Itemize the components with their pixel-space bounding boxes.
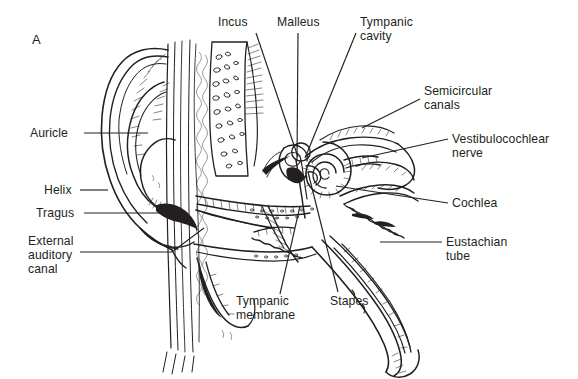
label-tympanic-membrane-line1: Tympanic [236, 294, 289, 308]
label-external-auditory-canal-line1: External [28, 234, 74, 248]
label-external-auditory-canal-line2: auditory [28, 248, 73, 262]
label-vestibulocochlear-nerve-line2: nerve [452, 146, 483, 160]
label-tympanic-cavity-line2: cavity [360, 29, 393, 43]
label-eustachian-tube-line2: tube [446, 249, 470, 263]
label-eustachian-tube-line1: Eustachian [446, 235, 507, 249]
label-tragus: Tragus [36, 206, 74, 220]
label-malleus: Malleus [277, 15, 320, 29]
ear-anatomy-illustration: A Auricle Helix Tragus External auditory… [0, 0, 578, 379]
label-tympanic-membrane-line2: membrane [236, 308, 295, 322]
panel-letter: A [32, 32, 41, 47]
label-helix: Helix [44, 183, 72, 197]
label-vestibulocochlear-nerve-line1: Vestibulocochlear [452, 132, 549, 146]
label-tympanic-membrane: Tympanic membrane [236, 294, 295, 322]
label-incus: Incus [218, 15, 248, 29]
label-tympanic-cavity-line1: Tympanic [360, 15, 413, 29]
ear-anatomy-figure: A Auricle Helix Tragus External auditory… [0, 0, 578, 379]
label-semicircular-canals-line1: Semicircular [424, 84, 492, 98]
label-cochlea: Cochlea [452, 196, 498, 210]
label-semicircular-canals-line2: canals [424, 98, 460, 112]
label-auricle: Auricle [30, 126, 68, 140]
label-stapes: Stapes [330, 294, 369, 308]
label-external-auditory-canal-line3: canal [28, 262, 58, 276]
